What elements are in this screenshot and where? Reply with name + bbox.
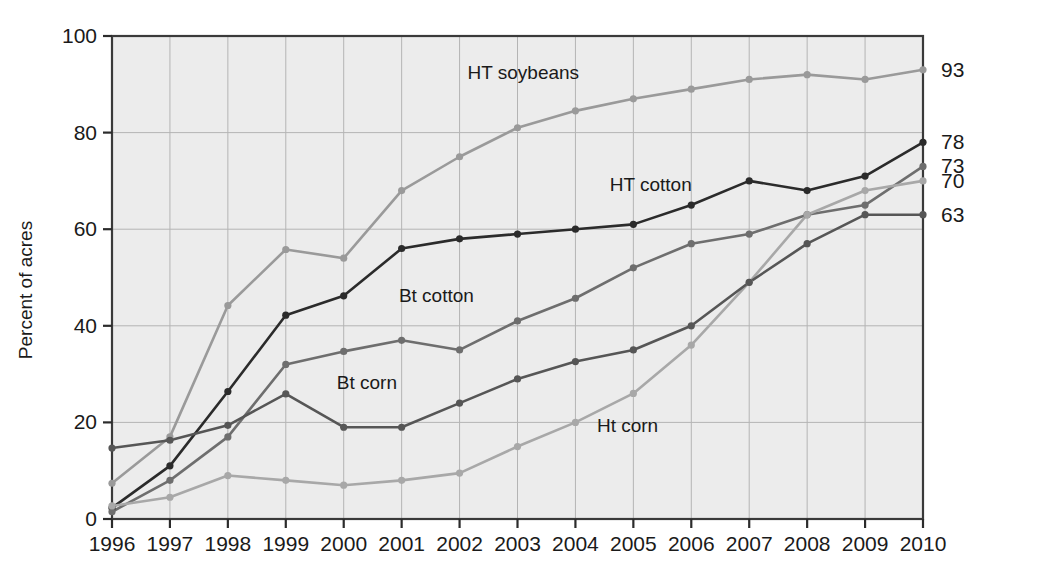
data-point (456, 153, 463, 160)
y-tick-label: 80 (74, 121, 97, 144)
data-point (108, 480, 115, 487)
data-point (340, 482, 347, 489)
data-point (572, 107, 579, 114)
data-point (861, 187, 868, 194)
data-point (224, 422, 231, 429)
x-tick-label: 2003 (494, 532, 541, 555)
data-point (746, 76, 753, 83)
x-tick-label: 2009 (842, 532, 889, 555)
data-point (572, 419, 579, 426)
data-point (919, 139, 926, 146)
data-point (919, 66, 926, 73)
series-label-bt-cotton: Bt cotton (399, 285, 474, 306)
x-tick-label: 2008 (784, 532, 831, 555)
data-point (572, 226, 579, 233)
data-point (340, 348, 347, 355)
data-point (108, 444, 115, 451)
data-point (166, 494, 173, 501)
end-value-ht-cotton: 78 (941, 130, 964, 153)
data-point (630, 264, 637, 271)
data-point (456, 470, 463, 477)
x-axis-tick-labels: 1996199719981999200020012002200320042005… (89, 532, 947, 555)
y-axis-title: Percent of acres (15, 221, 36, 359)
x-tick-label: 2010 (900, 532, 947, 555)
data-point (804, 71, 811, 78)
data-point (919, 163, 926, 170)
data-point (688, 240, 695, 247)
data-point (224, 472, 231, 479)
data-point (514, 124, 521, 131)
data-point (282, 390, 289, 397)
data-point (861, 201, 868, 208)
data-point (861, 172, 868, 179)
y-tick-label: 100 (62, 24, 97, 47)
data-point (282, 361, 289, 368)
line-chart: 020406080100 199619971998199920002001200… (0, 0, 1042, 579)
x-tick-label: 2004 (552, 532, 599, 555)
data-point (282, 477, 289, 484)
data-point (398, 245, 405, 252)
x-tick-label: 1997 (147, 532, 194, 555)
data-point (398, 337, 405, 344)
y-tick-label: 20 (74, 410, 97, 433)
series-label-bt-corn: Bt corn (337, 372, 397, 393)
end-value-ht-corn: 70 (941, 169, 964, 192)
data-point (166, 477, 173, 484)
data-point (224, 433, 231, 440)
data-point (224, 302, 231, 309)
data-point (398, 187, 405, 194)
end-value-ht-soybeans: 93 (941, 58, 964, 81)
data-point (804, 211, 811, 218)
series-label-ht-soybeans: HT soybeans (467, 62, 579, 83)
data-point (514, 443, 521, 450)
x-tick-label: 2006 (668, 532, 715, 555)
data-point (688, 201, 695, 208)
data-point (282, 246, 289, 253)
data-point (398, 477, 405, 484)
y-axis-title-text: Percent of acres (15, 221, 36, 359)
data-point (861, 211, 868, 218)
y-tick-label: 60 (74, 217, 97, 240)
data-point (861, 76, 868, 83)
x-tick-label: 2007 (726, 532, 773, 555)
data-point (630, 390, 637, 397)
data-point (919, 177, 926, 184)
data-point (688, 322, 695, 329)
x-tick-label: 2005 (610, 532, 657, 555)
y-tick-label: 0 (85, 507, 97, 530)
x-tick-label: 2000 (320, 532, 367, 555)
series-label-ht-cotton: HT cotton (610, 174, 692, 195)
data-point (630, 346, 637, 353)
data-point (166, 437, 173, 444)
data-point (572, 295, 579, 302)
data-point (456, 399, 463, 406)
data-point (282, 312, 289, 319)
data-point (514, 230, 521, 237)
data-point (514, 317, 521, 324)
x-tick-label: 1996 (89, 532, 136, 555)
data-point (456, 235, 463, 242)
data-point (746, 230, 753, 237)
data-point (919, 211, 926, 218)
data-point (514, 375, 521, 382)
data-point (572, 358, 579, 365)
x-tick-label: 1998 (204, 532, 251, 555)
data-point (688, 342, 695, 349)
data-point (108, 502, 115, 509)
data-point (688, 86, 695, 93)
end-value-bt-corn: 63 (941, 203, 964, 226)
data-point (340, 255, 347, 262)
data-point (398, 424, 405, 431)
data-point (746, 177, 753, 184)
data-point (166, 462, 173, 469)
data-point (746, 279, 753, 286)
data-point (340, 424, 347, 431)
x-tick-label: 2001 (378, 532, 425, 555)
series-label-ht-corn: Ht corn (597, 415, 658, 436)
data-point (804, 240, 811, 247)
chart-container: 020406080100 199619971998199920002001200… (0, 0, 1042, 579)
data-point (224, 388, 231, 395)
x-tick-label: 1999 (262, 532, 309, 555)
data-point (804, 187, 811, 194)
data-point (630, 95, 637, 102)
